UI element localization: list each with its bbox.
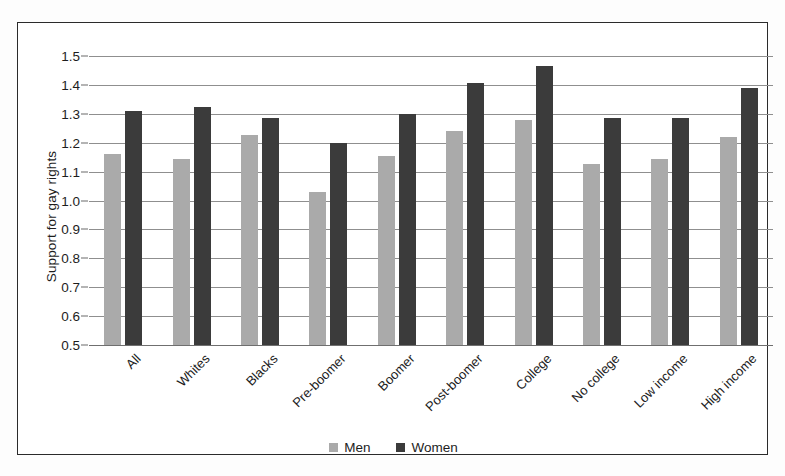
bar-men-whites [173, 159, 190, 345]
y-tick-mark [81, 345, 88, 346]
y-tick-label: 1.0 [61, 193, 80, 208]
y-tick-mark [81, 258, 88, 259]
y-tick-mark [81, 287, 88, 288]
y-tick-label: 1.5 [61, 49, 80, 64]
y-tick-mark [81, 229, 88, 230]
y-tick-label: 1.4 [61, 77, 80, 92]
y-tick-mark [81, 113, 88, 114]
y-tick-label: 0.7 [61, 280, 80, 295]
bar-series-group [89, 56, 773, 345]
x-axis-label: College [512, 351, 554, 393]
bar-men-college [515, 120, 532, 345]
y-tick-label: 1.1 [61, 164, 80, 179]
bar-women-blacks [262, 118, 279, 345]
x-axis-label: Low income [631, 351, 691, 411]
y-tick-mark [81, 56, 88, 57]
bar-men-pre-boomer [309, 192, 326, 345]
legend-label: Men [344, 440, 370, 455]
y-tick-mark [81, 200, 88, 201]
x-axis-label: Whites [173, 351, 212, 390]
bar-women-high-income [741, 88, 758, 345]
x-axis-label: No college [569, 351, 623, 405]
bar-men-no-college [583, 164, 600, 345]
x-axis-label: Post-boomer [423, 351, 486, 414]
bar-men-post-boomer [446, 131, 463, 345]
y-tick-mark [81, 84, 88, 85]
bar-men-boomer [378, 156, 395, 345]
bar-women-no-college [604, 118, 621, 345]
plot-area: 0.50.60.70.80.91.01.11.21.31.41.5 [89, 56, 773, 345]
bar-women-whites [194, 107, 211, 345]
y-axis-title: Support for gay rights [44, 117, 59, 317]
bar-women-low-income [672, 118, 689, 345]
x-axis-label: Blacks [243, 351, 281, 389]
bar-men-blacks [241, 135, 258, 345]
chart-frame: Support for gay rights 0.50.60.70.80.91.… [17, 22, 768, 455]
bar-women-all [125, 111, 142, 345]
y-tick-mark [81, 171, 88, 172]
legend-item-men[interactable]: Men [329, 440, 370, 455]
chart-legend: MenWomen [18, 440, 769, 455]
x-axis-label: All [123, 351, 144, 372]
bar-women-post-boomer [467, 83, 484, 345]
figure: Support for gay rights 0.50.60.70.80.91.… [0, 0, 785, 476]
bar-men-all [104, 154, 121, 345]
bar-women-pre-boomer [330, 143, 347, 345]
bar-women-boomer [399, 114, 416, 345]
bar-women-college [536, 66, 553, 345]
x-axis-label: Boomer [375, 351, 418, 394]
y-tick-label: 0.9 [61, 222, 80, 237]
legend-swatch-icon [329, 443, 338, 452]
x-axis-labels: AllWhitesBlacksPre-boomerBoomerPost-boom… [89, 345, 773, 445]
y-tick-mark [81, 316, 88, 317]
y-tick-label: 1.3 [61, 106, 80, 121]
legend-swatch-icon [396, 443, 405, 452]
y-tick-mark [81, 142, 88, 143]
x-axis-label: High income [698, 351, 760, 413]
bar-men-high-income [720, 137, 737, 345]
legend-item-women[interactable]: Women [396, 440, 457, 455]
legend-label: Women [411, 440, 457, 455]
y-tick-label: 0.5 [61, 338, 80, 353]
bar-men-low-income [651, 159, 668, 345]
y-tick-label: 0.8 [61, 251, 80, 266]
y-tick-label: 1.2 [61, 135, 80, 150]
x-axis-label: Pre-boomer [290, 351, 349, 410]
y-tick-label: 0.6 [61, 309, 80, 324]
